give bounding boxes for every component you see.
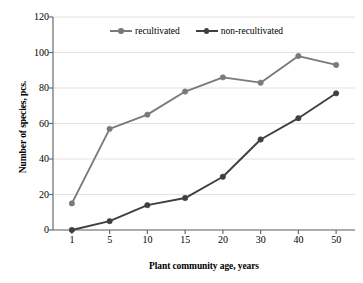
data-point bbox=[182, 195, 187, 200]
legend-label: recultivated bbox=[135, 26, 180, 36]
data-point bbox=[69, 227, 74, 232]
data-point bbox=[107, 126, 112, 131]
legend-item-non-recultivated[interactable]: non-recultivated bbox=[196, 26, 283, 36]
data-point bbox=[258, 80, 263, 85]
legend-marker-icon bbox=[110, 27, 132, 35]
plot-area bbox=[0, 0, 363, 283]
species-richness-line-chart: Number of species, pcs. 020406080100120 … bbox=[0, 0, 363, 283]
legend-marker-icon bbox=[196, 27, 218, 35]
data-point bbox=[296, 115, 301, 120]
data-point bbox=[182, 89, 187, 94]
data-point bbox=[220, 174, 225, 179]
data-point bbox=[333, 91, 338, 96]
data-point bbox=[220, 75, 225, 80]
legend-label: non-recultivated bbox=[221, 26, 283, 36]
data-point bbox=[258, 137, 263, 142]
series-line-1 bbox=[72, 93, 336, 230]
legend-item-recultivated[interactable]: recultivated bbox=[110, 26, 180, 36]
data-point bbox=[296, 53, 301, 58]
chart-legend: recultivated non-recultivated bbox=[110, 26, 283, 36]
data-point bbox=[145, 202, 150, 207]
data-point bbox=[107, 218, 112, 223]
data-point bbox=[69, 201, 74, 206]
data-point bbox=[333, 62, 338, 67]
data-point bbox=[145, 112, 150, 117]
